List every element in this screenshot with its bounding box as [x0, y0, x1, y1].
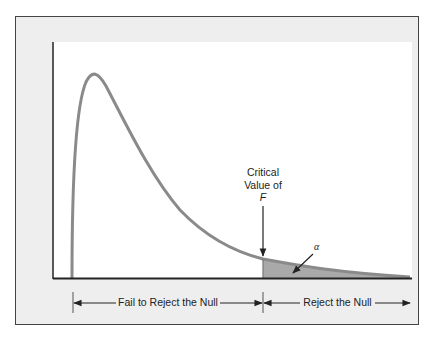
critical-label-line3: F: [238, 191, 288, 204]
f-distribution-chart: [0, 0, 433, 342]
alpha-label: α: [314, 241, 319, 252]
critical-label-line2: Value of: [238, 179, 288, 192]
critical-label-line1: Critical: [238, 166, 288, 179]
fail-to-reject-label: Fail to Reject the Null: [116, 296, 220, 308]
reject-label: Reject the Null: [300, 296, 375, 308]
critical-value-label: Critical Value of F: [238, 166, 288, 204]
